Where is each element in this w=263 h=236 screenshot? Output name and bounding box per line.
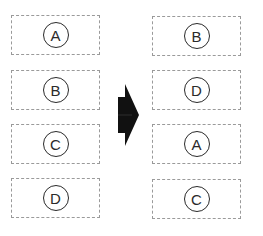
item-label: B	[50, 83, 60, 98]
right-item-box: B	[152, 16, 241, 56]
label-circle: B	[184, 23, 210, 49]
item-label: D	[50, 191, 61, 206]
label-circle: D	[184, 77, 210, 103]
label-circle: D	[43, 185, 69, 211]
item-label: B	[191, 29, 201, 44]
right-item-box: D	[152, 70, 241, 110]
right-item-box: C	[152, 179, 241, 219]
left-item-box: D	[11, 178, 100, 218]
label-circle: C	[43, 131, 69, 157]
label-circle: A	[43, 22, 69, 48]
item-label: C	[50, 137, 61, 152]
label-circle: A	[184, 131, 210, 157]
left-item-box: A	[11, 15, 100, 55]
item-label: C	[191, 192, 202, 207]
label-circle: C	[184, 186, 210, 212]
left-item-box: B	[11, 70, 100, 110]
label-circle: B	[43, 77, 69, 103]
item-label: A	[50, 28, 60, 43]
left-item-box: C	[11, 124, 100, 164]
right-item-box: A	[152, 124, 241, 164]
item-label: D	[191, 83, 202, 98]
block-arrow-right-icon	[114, 84, 142, 146]
item-label: A	[191, 137, 201, 152]
